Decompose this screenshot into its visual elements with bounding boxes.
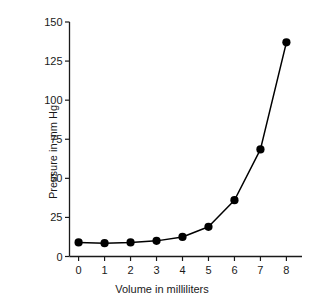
data-point <box>230 196 238 204</box>
data-point <box>126 238 134 246</box>
data-point <box>204 223 212 231</box>
y-tick-label: 25 <box>50 212 62 223</box>
data-point <box>152 237 160 245</box>
data-line <box>79 42 287 243</box>
x-tick-label: 0 <box>76 265 82 276</box>
x-axis-title: Volume in milliliters <box>0 283 324 295</box>
x-tick-label: 5 <box>205 265 211 276</box>
y-tick-marks <box>65 22 70 257</box>
data-point <box>256 145 264 153</box>
data-point <box>282 38 290 46</box>
data-point-markers <box>74 38 290 247</box>
data-point <box>74 238 82 246</box>
x-tick-label: 2 <box>127 265 133 276</box>
axes-group <box>70 22 303 257</box>
x-tick-label: 7 <box>257 265 263 276</box>
x-tick-label: 4 <box>179 265 185 276</box>
x-tick-label: 8 <box>283 265 289 276</box>
y-tick-label: 0 <box>56 251 62 262</box>
x-tick-label: 1 <box>102 265 108 276</box>
y-tick-label: 150 <box>44 17 62 28</box>
data-point <box>100 239 108 247</box>
data-point <box>178 233 186 241</box>
y-axis-title: Pressure in mm Hg <box>47 105 59 199</box>
x-tick-label: 3 <box>153 265 159 276</box>
x-tick-label: 6 <box>231 265 237 276</box>
pressure-volume-chart: 0255075100125150 012345678 Pressure in m… <box>0 0 324 304</box>
y-tick-label: 125 <box>44 56 62 67</box>
x-tick-marks <box>79 257 287 262</box>
